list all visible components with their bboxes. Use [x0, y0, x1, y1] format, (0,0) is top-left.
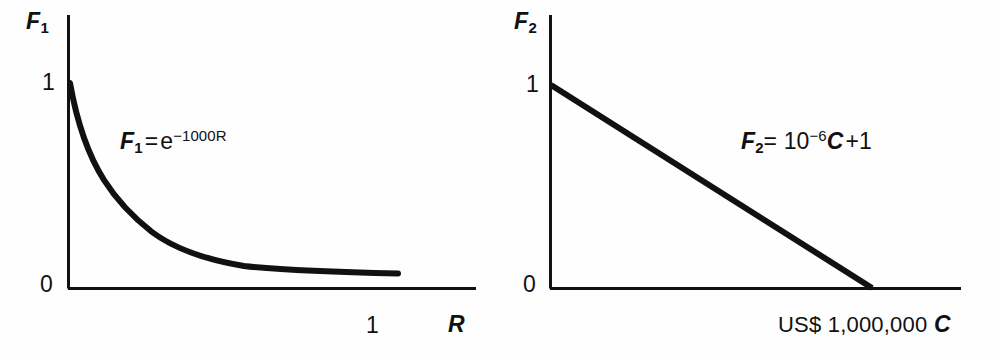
left-equation-lhs-subscript: 1	[134, 139, 142, 156]
right-x-axis-label: C	[934, 313, 951, 336]
right-data-line	[551, 85, 872, 288]
left-equation-exponent: −1000R	[173, 127, 227, 144]
right-equation-factor: C	[827, 128, 844, 154]
right-y-tick-0: 0	[523, 273, 536, 296]
left-y-tick-1: 1	[42, 71, 55, 94]
right-y-axis-label-text: F	[514, 8, 528, 34]
right-y-tick-1: 1	[526, 73, 539, 96]
right-equation-equals: =	[764, 128, 778, 154]
right-equation-annotation: F2= 10−6C +1	[741, 128, 872, 155]
chart-panel-left: F1 1 0 1 R F1 = e−1000R	[0, 0, 497, 357]
right-equation-base: 10	[784, 128, 810, 154]
left-x-axis-label: R	[448, 313, 465, 336]
right-y-axis-label-subscript: 2	[529, 19, 537, 36]
chart-panel-right: F2 1 0 US$ 1,000,000 C F2= 10−6C +1	[497, 0, 997, 357]
left-y-axis-label: F1	[26, 10, 49, 35]
right-x-axis-unit-label: US$ 1,000,000	[778, 314, 927, 336]
right-plot-graphics	[497, 0, 997, 357]
right-equation-exponent: −6	[809, 127, 826, 144]
left-plot-graphics	[0, 0, 497, 357]
figure-canvas: F1 1 0 1 R F1 = e−1000R F2 1 0	[0, 0, 997, 357]
left-y-axis-label-subscript: 1	[41, 19, 49, 36]
left-y-axis-label-text: F	[26, 8, 40, 34]
right-equation-tail: +1	[846, 128, 872, 154]
right-y-axis-label: F2	[514, 10, 537, 35]
left-equation-lhs: F	[120, 128, 134, 154]
left-equation-equals: =	[145, 128, 159, 154]
right-equation-lhs: F	[741, 128, 755, 154]
left-data-curve	[70, 83, 398, 274]
left-x-tick-1: 1	[366, 314, 379, 337]
left-equation-base: e	[160, 128, 173, 154]
right-equation-lhs-subscript: 2	[755, 139, 763, 156]
left-y-tick-0: 0	[40, 273, 53, 296]
left-equation-annotation: F1 = e−1000R	[120, 128, 227, 155]
